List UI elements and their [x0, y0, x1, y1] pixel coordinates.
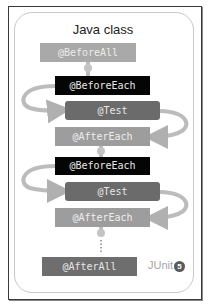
step-test: @Test [65, 182, 160, 201]
step-before-all: @BeforeAll [40, 43, 136, 62]
step-test: @Test [65, 101, 160, 120]
step-before-each: @BeforeEach [55, 76, 150, 95]
connector-icon [84, 60, 92, 76]
step-after-each: @AfterEach [55, 127, 150, 146]
step-after-all: @AfterAll [42, 257, 137, 276]
junit-logo-text: JUnit [148, 259, 173, 271]
junit-logo: JUnit5 [148, 259, 185, 272]
step-after-each: @AfterEach [55, 208, 150, 227]
junit5-badge-icon: 5 [174, 261, 185, 272]
step-before-each: @BeforeEach [55, 157, 150, 175]
